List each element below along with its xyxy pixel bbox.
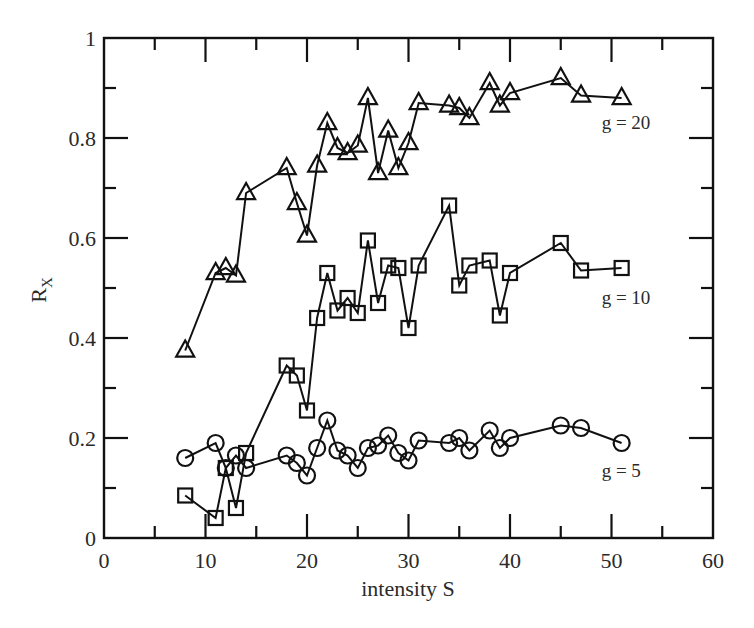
series-label: g = 10	[602, 287, 651, 308]
y-axis-label-main: R	[26, 288, 51, 303]
series-label: g = 5	[602, 460, 641, 481]
y-tick-label: 1	[85, 26, 96, 51]
x-tick-label: 40	[499, 548, 521, 573]
y-tick-label: 0.8	[69, 126, 97, 151]
y-axis-label: RX	[26, 277, 55, 303]
y-tick-label: 0	[85, 526, 96, 551]
series-label: g = 20	[602, 112, 651, 133]
x-tick-label: 60	[702, 548, 724, 573]
series-line	[185, 206, 621, 519]
x-tick-label: 50	[601, 548, 623, 573]
series-labels: g = 20g = 10g = 5	[602, 112, 651, 481]
data-series	[176, 68, 630, 525]
x-tick-label: 30	[398, 548, 420, 573]
x-tick-label: 20	[296, 548, 318, 573]
y-tick-label: 0.4	[69, 326, 97, 351]
triangle-marker	[572, 86, 590, 102]
x-tick-label: 10	[195, 548, 217, 573]
series-g-5	[177, 413, 629, 484]
series-g-20	[176, 68, 630, 357]
circle-marker	[614, 435, 630, 451]
triangle-marker	[552, 68, 570, 84]
series-line	[185, 78, 621, 351]
y-axis-label-subscript: X	[39, 277, 55, 288]
triangle-marker	[613, 88, 631, 104]
x-axis-label: intensity S	[361, 576, 455, 601]
y-tick-label: 0.6	[69, 226, 97, 251]
x-tick-label: 0	[99, 548, 110, 573]
chart: 010203040506000.20.40.60.81 g = 20g = 10…	[0, 0, 754, 628]
y-tick-label: 0.2	[69, 426, 97, 451]
